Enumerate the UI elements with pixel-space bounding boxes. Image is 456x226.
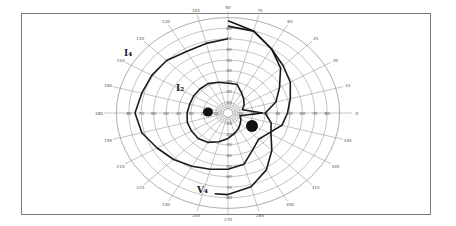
meridian-label-180: 180: [95, 111, 103, 116]
meridian-line: [113, 114, 222, 139]
tick-label: 40: [275, 111, 281, 116]
meridian-label-150: 150: [117, 58, 125, 63]
meridian-label-135: 135: [136, 36, 144, 41]
tick-label: 60: [226, 47, 232, 52]
meridian-label-15: 15: [345, 83, 351, 88]
tick-label: 30: [226, 142, 232, 147]
meridian-label-195: 195: [104, 138, 112, 143]
tick-label: 70: [312, 111, 318, 116]
meridian-label-75: 75: [257, 8, 263, 13]
meridian-line: [144, 117, 224, 185]
meridian-label-225: 225: [136, 185, 144, 190]
meridian-label-240: 240: [162, 202, 170, 207]
meridian-label-210: 210: [117, 164, 125, 169]
tick-label: 80: [126, 111, 132, 116]
meridian-label-165: 165: [104, 83, 112, 88]
perimetry-chart: 0153045607590105120135150165180195210225…: [0, 0, 456, 226]
meridian-label-60: 60: [287, 19, 293, 24]
tick-label: 40: [226, 153, 232, 158]
tick-label: 70: [139, 111, 145, 116]
tick-label: 80: [226, 195, 232, 200]
tick-label: 40: [176, 111, 182, 116]
blind-spot: [246, 120, 258, 132]
meridian-line: [197, 15, 226, 108]
meridian-label-105: 105: [192, 8, 200, 13]
tick-label: 60: [300, 111, 306, 116]
tick-label: 10: [226, 100, 232, 105]
meridian-label-315: 315: [312, 185, 320, 190]
meridian-line: [197, 118, 226, 211]
tick-label: 60: [226, 174, 232, 179]
meridian-label-30: 30: [333, 58, 339, 63]
meridian-label-270: 270: [224, 217, 232, 222]
tick-label: 10: [226, 121, 232, 126]
meridian-line: [113, 87, 222, 112]
isopter-I4: [135, 26, 290, 169]
meridian-label-120: 120: [162, 19, 170, 24]
meridian-label-345: 345: [344, 138, 352, 143]
blind-spot: [203, 108, 213, 117]
tick-label: 60: [151, 111, 157, 116]
tick-label: 20: [226, 89, 232, 94]
meridian-label-90: 90: [225, 5, 231, 10]
meridian-label-285: 285: [256, 213, 264, 218]
meridian-label-300: 300: [286, 202, 294, 207]
tick-label: 10: [213, 111, 219, 116]
meridian-label-45: 45: [313, 36, 319, 41]
meridian-label-255: 255: [192, 213, 200, 218]
tick-label: 50: [226, 58, 232, 63]
isopter-label-I4: I₄: [124, 48, 132, 58]
isopter-label-V4: V₄: [196, 185, 208, 195]
isopter-label-I2: I₂: [176, 83, 184, 93]
meridian-label-330: 330: [331, 164, 339, 169]
meridian-label-0: 0: [356, 111, 359, 116]
tick-label: 50: [163, 111, 169, 116]
tick-label: 30: [188, 111, 194, 116]
meridian-line: [144, 41, 224, 109]
tick-label: 80: [325, 111, 331, 116]
tick-label: 40: [226, 68, 232, 73]
tick-label: 70: [226, 185, 232, 190]
